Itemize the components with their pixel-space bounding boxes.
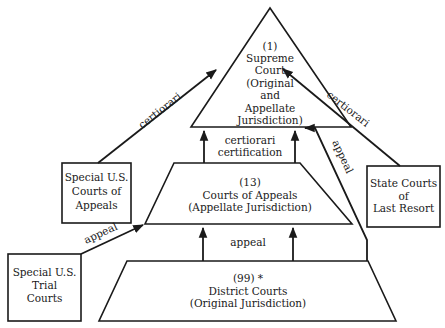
supreme-label-2: Court [255,64,286,76]
state-courts-label-1: State Courts [370,177,437,189]
district-label-1: District Courts [209,285,288,297]
special-appeals-label-3: Appeals [74,199,117,211]
appeal-label-middle: appeal [230,236,266,248]
court-hierarchy-diagram: (1) Supreme Court (Original and Appellat… [0,0,445,328]
district-label-2: (Original Jurisdiction) [190,297,306,309]
state-courts-node: State Courts of Last Resort [367,166,440,227]
appeals-count: (13) [239,176,261,188]
supreme-label-3: (Original [246,77,294,89]
courts-of-appeals-node: (13) Courts of Appeals (Appellate Jurisd… [145,163,352,224]
supreme-court-node: (1) Supreme Court (Original and Appellat… [191,8,351,127]
state-courts-label-3: Last Resort [373,202,435,214]
supreme-count: (1) [263,40,278,52]
supreme-label-1: Supreme [246,52,294,64]
certiorari-label-left: certiorari [136,90,184,131]
special-trial-label-3: Courts [27,292,63,304]
cert-label: certiorari [225,134,276,146]
supreme-label-4: and [260,89,280,101]
certification-label: certification [218,146,283,158]
district-count: (99) * [233,272,264,284]
appeals-label-2: (Appellate Jurisdiction) [188,201,312,213]
trial-to-appeals-edge: appeal [81,220,143,254]
special-appeals-label-2: Courts of [72,185,122,197]
cert-certification-edge: certiorari certification [204,131,295,163]
state-courts-label-2: of [398,190,409,202]
district-courts-node: (99) * District Courts (Original Jurisdi… [99,261,396,321]
appeals-label-1: Courts of Appeals [203,189,298,201]
special-courts-of-appeals-node: Special U.S. Courts of Appeals [62,163,131,223]
special-trial-label-1: Special U.S. [13,266,77,278]
supreme-label-6: Jurisdiction) [236,114,302,126]
special-appeals-label-1: Special U.S. [65,171,129,183]
supreme-label-5: Appellate [244,102,296,114]
special-trial-courts-node: Special U.S. Trial Courts [8,254,81,321]
district-to-appeals-edge: appeal [203,228,293,261]
special-trial-label-2: Trial [32,279,58,291]
